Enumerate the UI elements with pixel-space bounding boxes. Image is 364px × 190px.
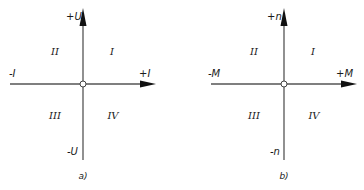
- quadrant-label-iv: IV: [308, 111, 319, 121]
- arrow-right-icon: [341, 81, 357, 88]
- axes-drawing: [0, 0, 364, 190]
- diagram-a-axes: [10, 8, 156, 160]
- quadrant-label-ii: II: [51, 47, 59, 57]
- axis-label-plus-i: +I: [139, 69, 150, 79]
- axis-label-minus-i: -I: [9, 69, 16, 79]
- arrow-right-icon: [140, 81, 156, 88]
- axis-label-plus-m: +M: [336, 69, 353, 79]
- axis-label-minus-m: -M: [208, 69, 220, 79]
- quadrant-label-ii: II: [250, 47, 258, 57]
- quadrant-label-iii: III: [248, 111, 260, 121]
- axis-label-plus-u: +U: [66, 12, 82, 22]
- quadrant-label-iv: IV: [107, 111, 118, 121]
- quadrant-label-iii: III: [49, 111, 61, 121]
- caption-b: b): [279, 172, 288, 181]
- caption-a: a): [78, 172, 87, 181]
- origin-circle-icon: [80, 81, 86, 87]
- quadrant-label-i: I: [311, 47, 315, 57]
- axis-label-plus-n: +n: [267, 12, 282, 22]
- axis-label-minus-n: -n: [270, 147, 280, 157]
- origin-circle-icon: [281, 81, 287, 87]
- quadrant-label-i: I: [110, 47, 114, 57]
- diagram-b-axes: [211, 8, 357, 160]
- axis-label-minus-u: -U: [67, 147, 78, 157]
